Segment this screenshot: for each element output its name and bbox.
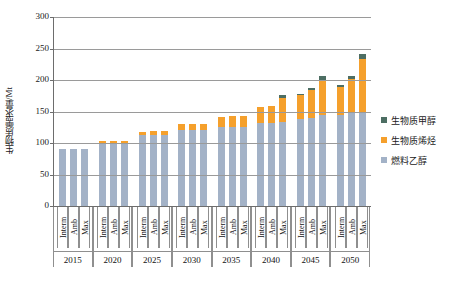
x-axis-subcategory: Amb (227, 207, 238, 248)
x-axis-subcategory-label: Max (80, 207, 91, 248)
bar-segment (59, 149, 66, 206)
x-axis-subgroup-row: IntermAmbMax (173, 207, 211, 248)
bar[interactable] (319, 76, 326, 206)
bar[interactable] (240, 116, 247, 206)
legend-item[interactable]: 燃料乙醇 (381, 150, 451, 170)
biomass-demand-chart: 生物质需求量/Mt 050100150200250300 IntermAmbMa… (0, 0, 452, 284)
legend-swatch-icon (381, 117, 387, 123)
x-axis-subgroup-row: IntermAmbMax (213, 207, 251, 248)
bar-segment (189, 130, 196, 206)
x-axis-subcategory: Max (277, 207, 288, 248)
y-tick-mark (50, 112, 54, 113)
x-axis-subcategory: Max (79, 207, 90, 248)
gridline (54, 112, 371, 113)
x-axis-subcategory: Max (119, 207, 130, 248)
bar[interactable] (308, 88, 315, 206)
x-axis-year-label: 2030 (173, 251, 211, 265)
y-tick-label: 0 (23, 201, 49, 210)
x-axis-subcategory: Interm (335, 207, 346, 248)
x-axis-year-label: 2035 (213, 251, 251, 265)
bar[interactable] (337, 85, 344, 206)
bar-segment (240, 127, 247, 206)
x-axis-subcategory: Amb (68, 207, 79, 248)
y-tick-label: 100 (23, 138, 49, 147)
legend-item[interactable]: 生物质烯烃 (381, 130, 451, 150)
bar-segment (348, 113, 355, 206)
bar-segment (218, 127, 225, 206)
legend-swatch-icon (381, 137, 387, 143)
plot-area (53, 17, 371, 207)
x-axis-subcategory: Amb (187, 207, 198, 248)
y-tick-label: 300 (23, 12, 49, 21)
x-axis-labels: IntermAmbMax2015IntermAmbMax2020IntermAm… (53, 207, 370, 267)
bar[interactable] (229, 116, 236, 206)
x-axis-group: IntermAmbMax2050 (330, 207, 370, 267)
y-tick-label: 200 (23, 75, 49, 84)
legend-swatch-icon (381, 157, 387, 163)
x-axis-subcategory-label: Max (318, 207, 329, 248)
bar-segment (297, 119, 304, 206)
bar[interactable] (257, 107, 264, 206)
y-tick-mark (50, 175, 54, 176)
bar-segment (279, 98, 286, 122)
bar-segment (279, 122, 286, 206)
y-axis-title: 生物质需求量/Mt (2, 40, 16, 200)
x-axis-year-label: 2045 (292, 251, 330, 265)
bar-segment (70, 149, 77, 206)
x-axis-subcategory-label: Max (239, 207, 250, 248)
x-axis-subcategory: Amb (346, 207, 357, 248)
x-axis-subcategory: Max (238, 207, 249, 248)
x-axis-year-label: 2050 (331, 251, 369, 265)
x-axis-group: IntermAmbMax2035 (212, 207, 252, 267)
bar-segment (229, 127, 236, 206)
x-axis-year-label: 2040 (252, 251, 290, 265)
x-axis-group: IntermAmbMax2040 (251, 207, 291, 267)
legend-label: 燃料乙醇 (391, 154, 427, 167)
y-tick-mark (50, 17, 54, 18)
x-axis-group: IntermAmbMax2015 (53, 207, 93, 267)
x-axis-subcategory: Amb (306, 207, 317, 248)
chart-legend: 生物质甲醇生物质烯烃燃料乙醇 (381, 110, 451, 170)
x-axis-subcategory: Interm (57, 207, 68, 248)
bar-segment (337, 115, 344, 206)
x-axis-subgroup-row: IntermAmbMax (331, 207, 369, 248)
bar[interactable] (70, 149, 77, 206)
x-axis-subcategory: Interm (176, 207, 187, 248)
x-axis-subcategory: Interm (137, 207, 148, 248)
bar[interactable] (348, 76, 355, 206)
bar[interactable] (81, 149, 88, 206)
gridline (54, 143, 371, 144)
x-axis-subcategory-label: Max (120, 207, 131, 248)
x-axis-subcategory-label: Max (358, 207, 369, 248)
y-tick-mark (50, 80, 54, 81)
bar[interactable] (359, 54, 366, 206)
x-axis-group: IntermAmbMax2030 (172, 207, 212, 267)
bar[interactable] (178, 124, 185, 206)
bar-segment (139, 135, 146, 206)
bar-segment (200, 130, 207, 206)
legend-label: 生物质烯烃 (391, 134, 436, 147)
bar[interactable] (268, 106, 275, 206)
bar-segment (359, 112, 366, 207)
bar[interactable] (218, 117, 225, 206)
bar[interactable] (189, 124, 196, 206)
x-axis-subcategory: Max (317, 207, 328, 248)
x-axis-subcategory: Interm (255, 207, 266, 248)
x-axis-subcategory-label: Max (160, 207, 171, 248)
x-axis-subgroup-row: IntermAmbMax (252, 207, 290, 248)
y-tick-label: 150 (23, 107, 49, 116)
gridline (54, 49, 371, 50)
x-axis-subcategory: Interm (216, 207, 227, 248)
bar-segment (319, 80, 326, 115)
y-tick-label: 250 (23, 44, 49, 53)
bar-segment (240, 116, 247, 127)
x-axis-group: IntermAmbMax2045 (291, 207, 331, 267)
bar-segment (348, 79, 355, 113)
x-axis-subcategory: Max (198, 207, 209, 248)
bar-segment (308, 118, 315, 206)
legend-item[interactable]: 生物质甲醇 (381, 110, 451, 130)
bar[interactable] (59, 149, 66, 206)
bar[interactable] (200, 124, 207, 206)
y-tick-mark (50, 49, 54, 50)
bar-segment (268, 123, 275, 206)
